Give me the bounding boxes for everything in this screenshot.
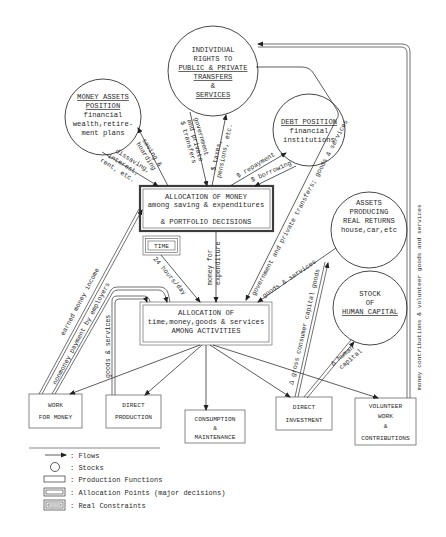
vol-line-3: & [384,423,388,430]
stock-money-assets: MONEY ASSETS POSITION financial wealth,r… [65,79,141,155]
rights-amp: & [211,82,216,90]
triple-box-icon [44,500,65,510]
label-money-for: money for [207,249,214,285]
legend-item-flows: : Flows [45,452,99,460]
constraint-time-box: TIME [143,236,180,255]
money-assets-title-2: POSITION [86,102,121,110]
alloc-money-line-1: ALLOCATION OF MONEY [165,193,248,201]
label-hours-day: 24 hours/day [151,256,187,297]
box-direct-production: DIRECT PRODUCTION [106,395,161,428]
box-consumption-maintenance: CONSUMPTION & MAINTENANCE [185,410,245,443]
flow-labels: saving & hoarding dissaving, interest, r… [52,117,423,390]
circle-icon [51,463,60,472]
svg-text:: Production Functions: : Production Functions [70,476,162,484]
human-title: HUMAN CAPITAL [342,308,398,316]
legend-item-constraints: : Real Constraints [44,500,146,510]
single-box-icon [44,476,65,482]
legend-item-allocation: : Allocation Points (major decisions) [44,488,225,497]
work-line-2: FOR MONEY [39,414,73,421]
vol-line-2: WORK [378,413,393,420]
alloc-money-line-2: among saving & expenditures [148,201,264,209]
box-direct-investment: DIRECT INVESTMENT [276,397,332,430]
work-line-1: WORK [48,402,63,409]
dp-line-2: PRODUCTION [115,414,152,421]
rights-services: SERVICES [196,91,231,99]
money-assets-title-1: MONEY ASSETS [77,93,129,101]
time-label: TIME [154,243,169,250]
human-line-2: OF [366,299,375,307]
box-work-for-money: WORK FOR MONEY [29,394,82,428]
stock-human-capital: STOCK OF HUMAN CAPITAL [333,271,407,345]
debt-title: DEBT POSITION [281,118,337,126]
vol-line-4: CONTRIBUTIONS [361,435,410,442]
assets-examples: house,car,etc [341,226,397,234]
household-economy-diagram: MONEY ASSETS POSITION financial wealth,r… [0,0,446,537]
rights-line-4: TRANSFERS [194,73,233,81]
stock-debt-position: DEBT POSITION financial institutions [273,94,345,166]
assets-line-3: REAL RETURNS [343,217,395,225]
di-line-1: DIRECT [293,404,316,411]
label-consumer-capital: Δ gross consumer capital goods [288,268,322,385]
assets-line-2: PRODUCING [350,208,389,216]
legend-item-production: : Production Functions [44,476,162,484]
cons-line-2: & [213,425,217,432]
flow-earned-income [39,209,139,394]
flow-dp-goods [112,296,150,395]
flow-to-work [70,345,200,394]
flow-to-dp [145,345,202,395]
allocation-money-box: ALLOCATION OF MONEY among saving & expen… [140,186,273,231]
alloc-money-line-3: & PORTFOLIO DECISIONS [161,218,252,226]
cons-line-3: MAINTENANCE [195,434,236,441]
alloc-activities-line-2: time,money,goods & services [148,318,264,326]
money-assets-line-2: wealth,retire- [73,120,133,128]
dp-line-1: DIRECT [122,402,145,409]
svg-text:: Allocation Points (major dec: : Allocation Points (major decisions) [70,489,225,497]
legend-item-stocks: : Stocks [51,463,104,473]
label-goods-services-dp: goods & services [105,315,112,378]
debt-line-1: financial [290,127,329,135]
human-line-1: STOCK [359,290,381,298]
allocation-activities-box: ALLOCATION OF time,money,goods & service… [140,302,272,345]
vol-line-1: VOLUNTEER [369,403,403,410]
double-box-icon [44,488,65,496]
box-volunteer-work: VOLUNTEER WORK & CONTRIBUTIONS [355,398,416,445]
money-assets-line-1: financial [84,111,123,119]
di-line-2: INVESTMENT [285,417,322,424]
legend: : Flows : Stocks : Production Functions … [29,448,225,510]
label-money-contributions: money contributions & volunteer goods an… [416,204,423,390]
assets-line-1: ASSETS [356,199,382,207]
cons-line-1: CONSUMPTION [195,416,236,423]
stock-assets-real-returns: ASSETS PRODUCING REAL RETURNS house,car,… [331,192,407,268]
rights-line-2: RIGHTS TO [194,55,233,63]
rights-line-3: PUBLIC & PRIVATE [178,64,247,72]
svg-text:: Stocks: : Stocks [70,464,104,472]
svg-text:: Flows: : Flows [70,452,99,460]
flow-to-di [210,345,290,397]
stock-individual-rights: INDIVIDUAL RIGHTS TO PUBLIC & PRIVATE TR… [168,26,258,116]
money-assets-line-3: ment plans [81,129,124,137]
rights-line-1: INDIVIDUAL [191,46,234,54]
alloc-activities-line-3: AMONG ACTIVITIES [171,327,240,335]
label-expenditure: expenditure [215,241,222,285]
svg-text:: Real Constraints: : Real Constraints [70,502,146,510]
alloc-activities-line-1: ALLOCATION OF [178,309,234,317]
